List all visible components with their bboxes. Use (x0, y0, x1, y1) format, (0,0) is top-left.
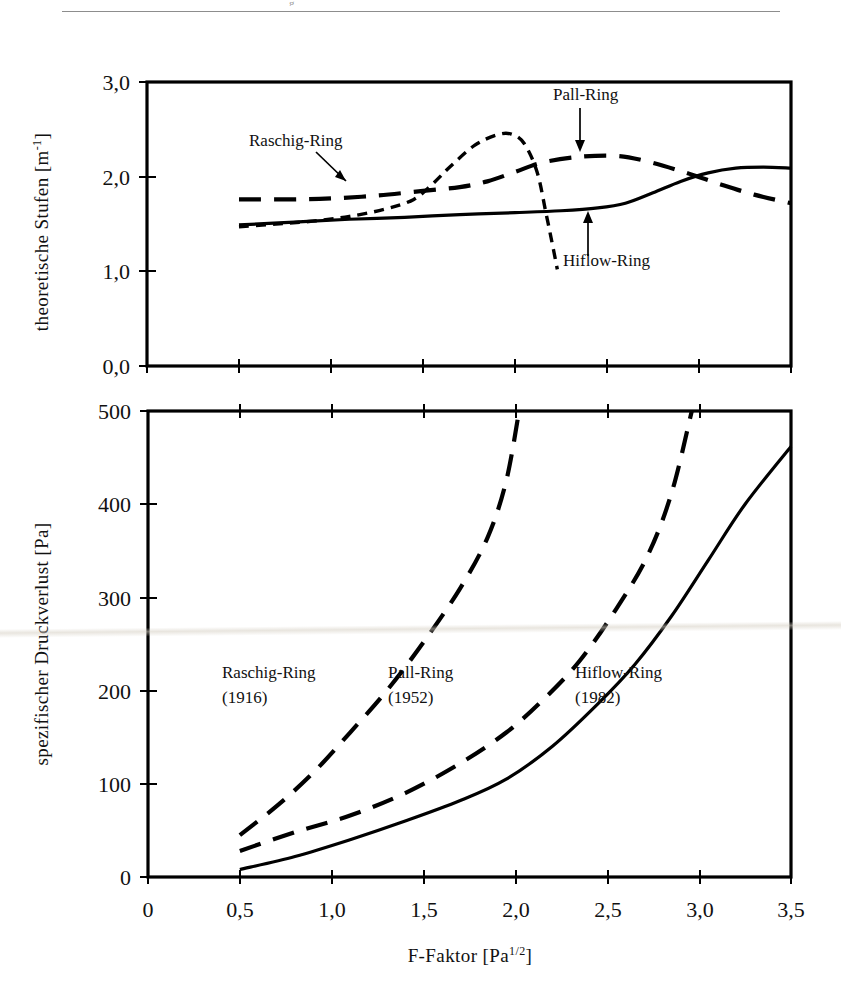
upper-leader-pall-ring (575, 108, 585, 152)
x-tick-label-3: 1,5 (410, 897, 438, 922)
upper-annotation-pall-ring: Pall-Ring (553, 85, 619, 104)
lower-panel: 0 100 200 300 400 500 spezifischer Druck… (31, 399, 805, 966)
upper-series-hiflow-ring (239, 167, 791, 225)
upper-y-axis-title-tail: ] (31, 133, 52, 140)
lower-label-raschig-ring-year: (1916) (222, 688, 267, 707)
lower-series-pall-ring (240, 411, 692, 851)
lower-y-tick-label-2: 200 (98, 679, 131, 704)
upper-y-tick-label-1: 1,0 (103, 259, 131, 284)
x-axis-title-sup: 1/2 (509, 944, 526, 958)
x-axis-title: F-Faktor [Pa1/2] (408, 944, 533, 966)
x-tick-label-5: 2,5 (594, 897, 622, 922)
lower-label-hiflow-ring-name: Hiflow-Ring (575, 663, 662, 682)
x-tick-label-6: 3,0 (686, 897, 714, 922)
x-tick-label-7: 3,5 (777, 897, 805, 922)
lower-y-tick-label-0: 0 (120, 865, 131, 890)
upper-series-pall-ring (239, 156, 791, 204)
lower-y-tick-label-5: 500 (98, 399, 131, 424)
lower-label-raschig-ring-name: Raschig-Ring (222, 663, 316, 682)
upper-panel: 0,0 1,0 2,0 3,0 theoretische Stufen [m-1… (30, 70, 791, 379)
upper-y-tick-label-0: 0,0 (103, 354, 131, 379)
x-tick-label-1: 0,5 (226, 897, 254, 922)
lower-label-raschig-ring: Raschig-Ring (1916) (222, 663, 316, 707)
x-axis-title-tail: ] (526, 945, 533, 966)
lower-label-pall-ring-name: Pall-Ring (388, 663, 454, 682)
upper-y-axis-title-main: theoretische Stufen [m (31, 150, 52, 331)
lower-y-tick-label-3: 300 (98, 586, 131, 611)
lower-y-axis-title: spezifischer Druckverlust [Pa] (31, 522, 52, 765)
lower-label-hiflow-ring: Hiflow-Ring (1982) (575, 663, 662, 707)
x-axis-title-main: F-Faktor [Pa (408, 945, 510, 966)
figure-container: 0,0 1,0 2,0 3,0 theoretische Stufen [m-1… (0, 0, 841, 982)
upper-annotation-hiflow-ring: Hiflow-Ring (563, 251, 650, 270)
lower-label-hiflow-ring-year: (1982) (575, 688, 620, 707)
lower-plot-frame (148, 411, 791, 877)
lower-y-tick-label-4: 400 (98, 492, 131, 517)
lower-label-pall-ring-year: (1952) (388, 688, 433, 707)
upper-y-tick-label-3: 3,0 (103, 70, 131, 95)
upper-y-axis-title-sup: -1 (30, 140, 44, 151)
svg-text:theoretische Stufen [m-1]: theoretische Stufen [m-1] (30, 133, 52, 331)
x-tick-labels: 0 0,5 1,0 1,5 2,0 2,5 3,0 3,5 (143, 897, 805, 922)
svg-text:spezifischer Druckverlust [Pa]: spezifischer Druckverlust [Pa] (31, 522, 52, 765)
chart-svg: 0,0 1,0 2,0 3,0 theoretische Stufen [m-1… (0, 0, 841, 982)
lower-series-hiflow-ring (240, 446, 791, 869)
upper-annotation-raschig-ring: Raschig-Ring (249, 131, 343, 150)
upper-leader-hiflow-ring (583, 211, 593, 256)
upper-y-tick-label-2: 2,0 (103, 165, 131, 190)
x-tick-label-2: 1,0 (318, 897, 346, 922)
x-tick-label-0: 0 (143, 897, 154, 922)
upper-y-axis-title: theoretische Stufen [m-1] (30, 133, 52, 331)
upper-leader-raschig-ring (316, 152, 346, 181)
x-tick-label-4: 2,0 (502, 897, 530, 922)
lower-series-raschig-ring (240, 411, 519, 835)
lower-x-ticks (148, 404, 791, 884)
lower-label-pall-ring: Pall-Ring (1952) (388, 663, 454, 707)
lower-y-tick-label-1: 100 (98, 772, 131, 797)
